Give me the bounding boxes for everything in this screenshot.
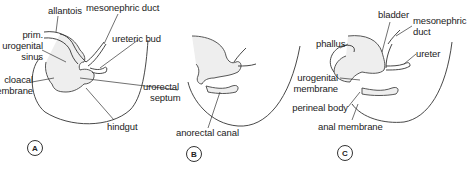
panel-c-ureter-leader [404, 54, 416, 64]
panel-a-hindgut-leader [86, 88, 114, 120]
panel-c-marker: C [337, 145, 353, 161]
panel-a-cloaca [45, 34, 94, 92]
label-prim-3: sinus [15, 51, 43, 62]
panel-b-anorectal-leader [208, 92, 220, 128]
panel-a-allantois-leader [56, 16, 58, 32]
panel-a-ureteric-bud [90, 67, 107, 73]
panel-c-perineal-leader [348, 92, 360, 107]
label-ugmem-2: membrane [280, 83, 338, 94]
label-ugmem-1: urogenital [280, 72, 338, 83]
panel-c-anal-leader [352, 104, 358, 120]
label-cloacal-1: cloacal [0, 74, 33, 85]
label-hindgut: hindgut [107, 121, 137, 132]
panel-a-marker: A [27, 140, 43, 156]
panel-c-rectum [362, 87, 398, 95]
label-urorectal-1: urorectal [143, 81, 179, 92]
label-prim-1: prim. [15, 29, 43, 40]
panel-a-drawing [32, 14, 178, 124]
label-anorectal-canal: anorectal canal [176, 127, 239, 138]
panel-c-bladder-leader [382, 22, 390, 52]
label-perineal-body: perineal body [270, 102, 348, 113]
label-mesonephric-c-1: mesonephric [413, 15, 466, 26]
panel-b-urogenital [192, 36, 241, 84]
panel-b-marker: B [186, 146, 202, 162]
label-mesonephric-c-2: duct [413, 26, 431, 37]
cloaca-development-figure [0, 0, 467, 169]
panel-a-mesonephric-duct [86, 42, 106, 66]
label-allantois: allantois [48, 5, 82, 16]
label-prim-2: urogenital [0, 40, 43, 51]
label-anal-membrane: anal membrane [318, 121, 383, 132]
panel-c-drawing [330, 22, 452, 122]
label-urorectal-2: septum [150, 92, 181, 103]
label-cloacal-2: membrane [0, 85, 33, 96]
panel-c-mesonephric [386, 30, 400, 68]
label-phallus: phallus [316, 38, 345, 49]
panel-c-ureter [386, 63, 410, 70]
label-mesonephric-duct-a: mesonephric duct [86, 2, 159, 13]
panel-b-hindgut [206, 85, 238, 93]
label-ureter: ureter [416, 48, 440, 59]
label-bladder: bladder [378, 9, 409, 20]
label-ureteric-bud: ureteric bud [112, 33, 161, 44]
